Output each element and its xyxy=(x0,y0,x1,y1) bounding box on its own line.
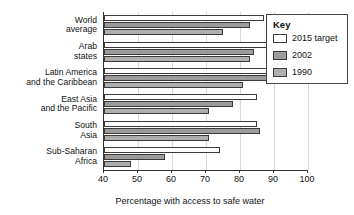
bar-1990-1 xyxy=(104,56,250,62)
bar-1990-4 xyxy=(104,135,209,141)
bar-1990-3 xyxy=(104,108,209,114)
x-tick-label: 50 xyxy=(122,174,152,184)
legend-label: 1990 xyxy=(292,67,312,77)
bar-2015-target-5 xyxy=(104,147,220,153)
bar-2015-target-0 xyxy=(104,15,264,21)
chart-legend: Key 2015 target20021990 xyxy=(266,14,348,84)
x-tick-label: 60 xyxy=(156,174,186,184)
x-tick-mark xyxy=(171,170,172,173)
legend-label: 2015 target xyxy=(292,33,338,43)
bar-chart: WorldaverageArabstatesLatin Americaand t… xyxy=(0,0,354,215)
x-tick-mark xyxy=(137,170,138,173)
x-tick-label: 40 xyxy=(88,174,118,184)
bar-1990-0 xyxy=(104,29,223,35)
x-axis: 405060708090100 xyxy=(103,170,307,186)
bar-1990-2 xyxy=(104,82,243,88)
category-label-1: states xyxy=(0,52,97,62)
bar-2015-target-1 xyxy=(104,42,277,48)
x-tick-mark xyxy=(103,170,104,173)
bar-2002-3 xyxy=(104,101,233,107)
bar-2015-target-4 xyxy=(104,121,257,127)
x-tick-mark xyxy=(205,170,206,173)
bar-2015-target-2 xyxy=(104,68,274,74)
category-label-5: Africa xyxy=(0,157,97,167)
x-axis-title: Percentage with access to safe water xyxy=(60,196,320,206)
bar-2002-1 xyxy=(104,49,254,55)
bar-2002-4 xyxy=(104,128,260,134)
bar-2015-target-3 xyxy=(104,94,257,100)
category-label-2: and the Caribbean xyxy=(0,78,97,88)
legend-swatch-icon xyxy=(273,34,287,43)
legend-swatch-icon xyxy=(273,51,287,60)
x-tick-label: 90 xyxy=(258,174,288,184)
category-label-0: average xyxy=(0,25,97,35)
x-tick-mark xyxy=(307,170,308,173)
category-axis: WorldaverageArabstatesLatin Americaand t… xyxy=(0,12,100,170)
bar-2002-0 xyxy=(104,22,250,28)
bar-2002-5 xyxy=(104,154,165,160)
bar-2002-2 xyxy=(104,75,271,81)
legend-title: Key xyxy=(273,19,290,30)
bar-1990-5 xyxy=(104,161,131,167)
legend-label: 2002 xyxy=(292,50,312,60)
category-label-4: Asia xyxy=(0,131,97,141)
x-tick-mark xyxy=(273,170,274,173)
x-tick-label: 80 xyxy=(224,174,254,184)
x-tick-label: 70 xyxy=(190,174,220,184)
category-label-3: and the Pacific xyxy=(0,104,97,114)
legend-swatch-icon xyxy=(273,68,287,77)
x-tick-mark xyxy=(239,170,240,173)
x-tick-label: 100 xyxy=(292,174,322,184)
